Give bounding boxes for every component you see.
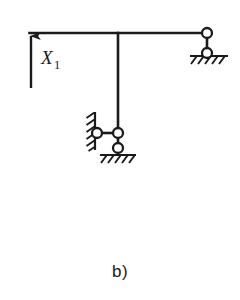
lower-ground-support: [100, 155, 136, 163]
right-beam-hinge-node: [202, 28, 212, 38]
wall-hinge-node: [92, 128, 102, 138]
force-label-base: X: [40, 47, 54, 68]
force-label-group: X 1: [40, 47, 60, 72]
force-label-subscript: 1: [54, 58, 60, 72]
column-base-hinge-node: [113, 128, 123, 138]
structural-diagram: X 1: [0, 0, 240, 300]
lower-ground-hatching: [101, 156, 135, 164]
figure-caption: b): [0, 262, 240, 282]
right-ground-hinge-node: [202, 48, 212, 58]
figure-container: X 1 b): [0, 0, 240, 300]
lower-ground-hinge-node: [113, 143, 123, 153]
